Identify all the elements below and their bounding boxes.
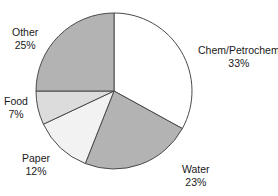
pie-label-other: Other 25%: [12, 26, 38, 51]
pie-label-food-value: 7%: [4, 108, 28, 121]
pie-label-chem-petrochem: Chem/Petrochem 33%: [198, 44, 278, 69]
pie-label-paper-name: Paper: [22, 152, 50, 165]
pie-label-water-name: Water: [182, 163, 210, 176]
pie-label-chem-petrochem-name: Chem/Petrochem: [198, 44, 278, 57]
pie-label-paper-value: 12%: [22, 165, 50, 178]
pie-label-chem-petrochem-value: 33%: [198, 57, 278, 70]
pie-label-food-name: Food: [4, 95, 28, 108]
pie-slice-group: [36, 13, 192, 169]
pie-chart-figure: Chem/Petrochem 33% Water 23% Paper 12% F…: [0, 0, 278, 196]
pie-label-water: Water 23%: [182, 163, 210, 188]
pie-label-other-value: 25%: [12, 39, 38, 52]
pie-label-water-value: 23%: [182, 176, 210, 189]
pie-label-paper: Paper 12%: [22, 152, 50, 177]
pie-slice-other: [36, 13, 114, 91]
pie-label-food: Food 7%: [4, 95, 28, 120]
pie-label-other-name: Other: [12, 26, 38, 39]
